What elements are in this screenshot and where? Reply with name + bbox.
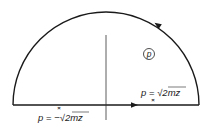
contour-diagram: p × p = −√2mz × p = √2mz <box>0 0 208 128</box>
pole-label-positive-radicand: 2mz <box>161 87 180 98</box>
plane-label: p <box>146 49 152 59</box>
pole-label-negative-eq: = <box>43 112 54 123</box>
pole-label-positive-eq: = <box>146 87 157 98</box>
pole-label-positive: p = √2mz <box>140 87 181 98</box>
baseline-arrow-icon <box>131 102 138 107</box>
pole-marker-negative: × <box>57 105 61 111</box>
pole-label-negative: p = −√2mz <box>37 112 83 123</box>
pole-label-negative-radicand: 2mz <box>64 112 83 123</box>
